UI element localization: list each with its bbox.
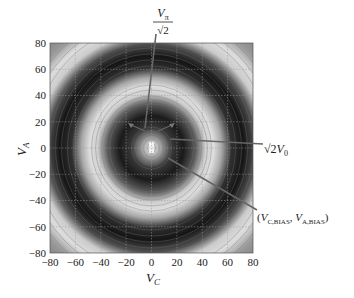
- svg-text:−20: −20: [29, 168, 47, 180]
- bias-annotation: (VC,BIAS, VA,BIAS): [257, 211, 329, 226]
- svg-text:20: 20: [171, 256, 183, 268]
- svg-text:0: 0: [41, 142, 47, 154]
- svg-text:−80: −80: [41, 256, 59, 268]
- y-axis-ticks: 80 60 40 20 0 −20 −40 −60 −80: [29, 37, 47, 259]
- svg-text:−40: −40: [92, 256, 110, 268]
- svg-text:Vπ: Vπ: [157, 6, 168, 22]
- contour-figure: 80 60 40 20 0 −20 −40 −60 −80 −80 −60 −4…: [0, 0, 354, 298]
- svg-text:80: 80: [35, 37, 47, 49]
- svg-text:−40: −40: [29, 194, 47, 206]
- svg-text:0: 0: [149, 256, 155, 268]
- svg-text:40: 40: [197, 256, 209, 268]
- svg-text:20: 20: [35, 116, 47, 128]
- x-axis-label: VC: [146, 270, 161, 287]
- v0-annotation: √2V0: [264, 142, 288, 158]
- vpi-annotation: Vπ √2: [153, 6, 173, 36]
- svg-text:VA: VA: [14, 142, 31, 156]
- svg-text:80: 80: [248, 256, 260, 268]
- svg-text:−20: −20: [117, 256, 135, 268]
- svg-text:60: 60: [35, 63, 47, 75]
- svg-text:√2: √2: [157, 24, 169, 36]
- svg-text:40: 40: [35, 89, 47, 101]
- svg-text:60: 60: [222, 256, 234, 268]
- contour-field: [22, 11, 282, 285]
- y-axis-label: VA: [14, 142, 31, 156]
- x-axis-ticks: −80 −60 −40 −20 0 20 40 60 80: [41, 256, 259, 268]
- svg-text:−60: −60: [67, 256, 85, 268]
- svg-text:−60: −60: [29, 221, 47, 233]
